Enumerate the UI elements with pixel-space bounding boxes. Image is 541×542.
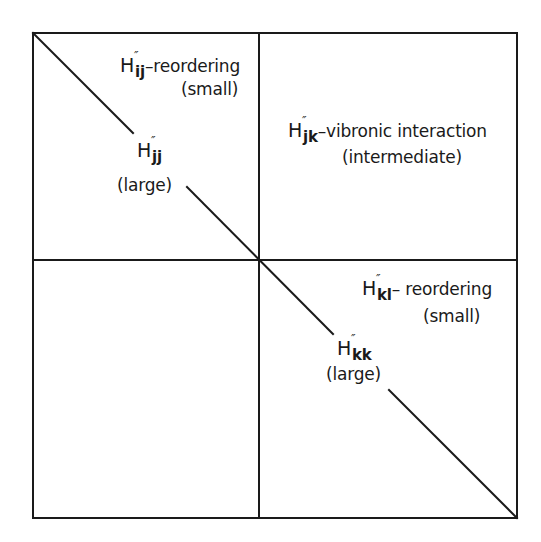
hij-symbol: H″ij	[120, 56, 145, 80]
hjj-symbol: H″jj	[137, 141, 162, 165]
diagonal-segment-3	[389, 390, 517, 518]
hjk-description: –vibronic interaction	[318, 121, 487, 141]
hjj-label: H″jj	[137, 141, 162, 165]
hkk-letter: H	[337, 337, 351, 359]
hkk-symbol: H″kk	[337, 339, 372, 363]
hij-primes: ″	[134, 50, 138, 62]
hjk-subscript: jk	[303, 128, 318, 146]
matrix-diagram	[0, 0, 541, 542]
hjj-subscript: jj	[152, 148, 162, 166]
hjj-letter: H	[137, 139, 151, 161]
hij-letter: H	[120, 54, 134, 76]
hjj-primes: ″	[151, 135, 155, 147]
hjk-letter: H	[288, 119, 302, 141]
hkk-size-label: (large)	[326, 366, 381, 383]
hkk-primes: ″	[351, 333, 355, 345]
diagonal-segment-1	[33, 33, 133, 133]
hkl-symbol: H″kl	[362, 279, 392, 303]
hkl-subscript: kl	[377, 286, 392, 304]
hkk-subscript: kk	[352, 346, 372, 364]
hij-subscript: ij	[135, 63, 145, 81]
hij-size-label: (small)	[181, 81, 238, 98]
hij-description: –reordering	[145, 56, 240, 76]
hkl-primes: ″	[376, 273, 380, 285]
hkl-reordering-label: H″kl – reordering	[362, 279, 492, 303]
hkl-description: – reordering	[392, 279, 492, 299]
hjk-symbol: H″jk	[288, 121, 318, 145]
hkl-size-label: (small)	[423, 308, 480, 325]
hjk-vibronic-label: H″jk –vibronic interaction	[288, 121, 487, 145]
hij-reordering-label: H″ij –reordering	[120, 56, 240, 80]
hkl-letter: H	[362, 277, 376, 299]
hjk-size-label: (intermediate)	[342, 149, 462, 166]
hjk-primes: ″	[302, 115, 306, 127]
hkk-label: H″kk	[337, 339, 372, 363]
hjj-size-label: (large)	[117, 177, 172, 194]
